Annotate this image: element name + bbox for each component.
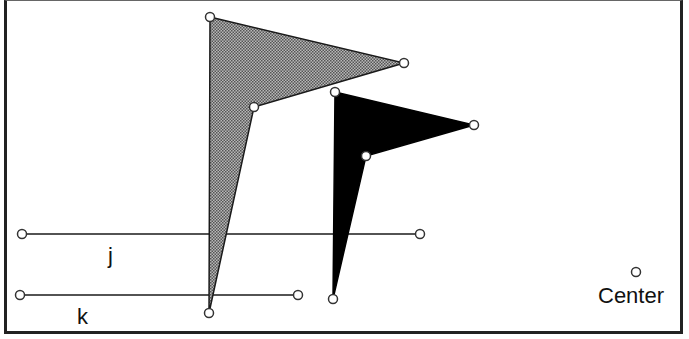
black-arrow-inner-handle[interactable] bbox=[362, 152, 371, 161]
line-k-label: k bbox=[77, 304, 89, 329]
gray-arrow-top-handle[interactable] bbox=[206, 13, 215, 22]
line-k-start-handle[interactable] bbox=[16, 291, 25, 300]
black-arrow-tip-handle[interactable] bbox=[470, 121, 479, 130]
center-point-handle[interactable] bbox=[632, 268, 641, 277]
line-j-start-handle[interactable] bbox=[18, 230, 27, 239]
gray-arrow-bottom-handle[interactable] bbox=[205, 309, 214, 318]
black-arrow-shape[interactable] bbox=[333, 92, 474, 299]
gray-arrow-inner-handle[interactable] bbox=[250, 103, 259, 112]
black-arrow-top-handle[interactable] bbox=[331, 88, 340, 97]
center-label: Center bbox=[598, 283, 664, 308]
diagram-canvas: j k Center bbox=[0, 0, 689, 339]
line-j-end-handle[interactable] bbox=[416, 230, 425, 239]
gray-arrow-shape[interactable] bbox=[209, 17, 404, 313]
black-arrow-bottom-handle[interactable] bbox=[329, 295, 338, 304]
gray-arrow-tip-handle[interactable] bbox=[400, 59, 409, 68]
line-j-label: j bbox=[107, 243, 113, 268]
line-k-end-handle[interactable] bbox=[294, 291, 303, 300]
